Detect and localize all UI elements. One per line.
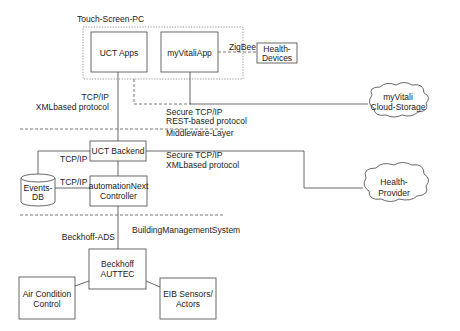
node-health-provider-label-1: Health- xyxy=(380,177,408,187)
layer-label-building: BuildingManagementSystem xyxy=(132,225,240,235)
edge-app-cloud xyxy=(190,72,368,104)
node-eib-sensors-label-2: Actors xyxy=(176,299,200,309)
edge-zigbee-label: ZigBee xyxy=(229,42,256,52)
node-beckhoff-label-1: Beckhoff xyxy=(101,259,135,269)
edge-apps-backend-label-1: TCP/IP xyxy=(82,92,110,102)
node-automation-next-label-1: automationNext xyxy=(89,181,149,191)
node-myvitali-cloud-label-1: myVitali xyxy=(383,92,413,102)
node-uct-backend-label: UCT Backend xyxy=(92,146,145,156)
edge-beckhoff-eib xyxy=(146,281,160,287)
edge-beckhoff-ads-label: Beckhoff-ADS xyxy=(62,232,116,242)
node-health-devices-label-2: Devices xyxy=(262,53,292,63)
node-automation-next-label-2: Controller xyxy=(100,191,137,201)
node-air-condition-label-2: Control xyxy=(33,299,61,309)
edge-apps-cloud-dashed xyxy=(134,79,191,104)
group-label-touch-screen-pc: Touch-Screen-PC xyxy=(77,14,144,24)
node-health-provider-label-2: Provider xyxy=(378,188,410,198)
edge-backend-provider-label-1: Secure TCP/IP xyxy=(166,150,223,160)
node-uct-apps-label: UCT Apps xyxy=(100,48,139,58)
node-events-db-label-2: DB xyxy=(32,192,44,202)
edge-beckhoff-aircondition xyxy=(75,281,89,286)
layer-label-middleware: Middleware-Layer xyxy=(166,128,234,138)
edge-controller-db-label: TCP/IP xyxy=(60,177,88,187)
edge-backend-provider-label-2: XMLbased protocol xyxy=(166,160,239,170)
edge-app-cloud-label-2: REST-based protocol xyxy=(166,116,247,126)
edge-backend-db-label: TCP/IP xyxy=(60,154,88,164)
edge-apps-backend-label-2: XMLbased protocol xyxy=(36,102,109,112)
node-air-condition-label-1: Air Condition xyxy=(23,289,72,299)
node-beckhoff-label-2: AUTTEC xyxy=(101,269,135,279)
node-eib-sensors-label-1: EIB Sensors/ xyxy=(163,289,213,299)
node-myvitali-cloud-label-2: Cloud-Storage xyxy=(371,102,426,112)
node-myvitali-app-label: myVitaliApp xyxy=(167,48,212,58)
architecture-diagram: Touch-Screen-PC UCT Apps myVitaliApp Zig… xyxy=(0,0,460,331)
